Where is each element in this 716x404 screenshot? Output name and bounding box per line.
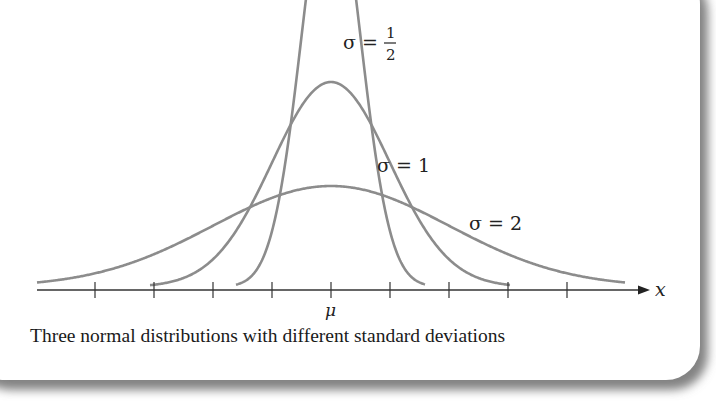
curve-sigma-0_5: [236, 0, 425, 285]
label-sigma-half-den: 2: [386, 46, 396, 64]
figure-caption: Three normal distributions with differen…: [30, 325, 630, 347]
x-axis-arrow-icon: [638, 286, 650, 295]
curve-sigma-2: [37, 186, 625, 282]
label-sigma-half-num: 1: [386, 24, 396, 42]
label-sigma-one: σ = 1: [377, 154, 430, 176]
axis-label-x: x: [655, 278, 666, 300]
mean-label: μ: [325, 300, 336, 320]
label-sigma-half: σ =: [343, 31, 378, 53]
curve-sigma-1: [150, 82, 510, 285]
label-sigma-two: σ = 2: [469, 212, 522, 234]
